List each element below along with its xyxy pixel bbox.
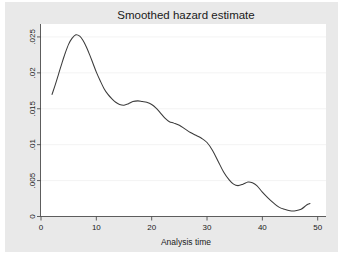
y-tick-label: .015 (28, 100, 37, 116)
x-tick-label: 50 (313, 223, 322, 232)
chart-title: Smoothed hazard estimate (117, 9, 254, 21)
y-tick-label: .02 (28, 67, 37, 79)
y-axis-ticks: 0.005.01.015.02.025 (28, 29, 41, 219)
y-tick-label: 0 (28, 214, 37, 219)
x-tick-label: 40 (258, 223, 267, 232)
y-tick-label: .005 (28, 172, 37, 188)
graph-panel: 01020304050 0.005.01.015.02.025 Smoothed… (5, 2, 338, 252)
y-tick-label: .025 (28, 29, 37, 45)
y-tick-label: .01 (28, 139, 37, 151)
x-axis-title: Analysis time (161, 237, 211, 247)
figure-canvas: 01020304050 0.005.01.015.02.025 Smoothed… (0, 0, 352, 267)
x-axis-ticks: 01020304050 (39, 217, 323, 232)
x-tick-label: 0 (39, 223, 44, 232)
x-tick-label: 20 (147, 223, 156, 232)
hazard-estimate-chart: 01020304050 0.005.01.015.02.025 Smoothed… (5, 2, 338, 252)
x-tick-label: 10 (92, 223, 101, 232)
plot-area-background (41, 24, 326, 216)
x-tick-label: 30 (203, 223, 212, 232)
